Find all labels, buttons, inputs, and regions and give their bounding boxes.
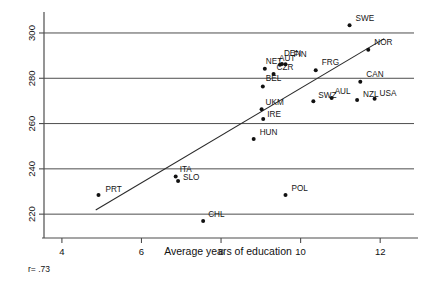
point-label-pol: POL: [291, 184, 308, 193]
data-point-swe: [348, 23, 352, 27]
y-tick-label-280: 280: [26, 70, 37, 86]
y-tick-label-220: 220: [26, 206, 37, 222]
data-point-den: [280, 62, 284, 66]
y-tick-labels-group: 220240260280300: [26, 25, 37, 222]
data-point-nzl: [355, 98, 359, 102]
data-point-slo: [176, 179, 180, 183]
point-label-chl: CHL: [208, 210, 225, 219]
x-tick-label-10: 10: [295, 246, 306, 257]
data-point-aul: [330, 96, 334, 100]
data-point-nor: [366, 48, 370, 52]
data-point-can: [358, 80, 362, 84]
point-label-nzl: NZL: [363, 90, 379, 99]
data-point-usa: [373, 97, 377, 101]
point-label-usa: USA: [380, 89, 397, 98]
point-label-ire: IRE: [267, 110, 281, 119]
data-point-chl: [201, 219, 205, 223]
x-axis-title: Average years of education: [164, 245, 292, 257]
data-point-hun: [252, 137, 256, 141]
point-label-slo: SLO: [183, 173, 199, 182]
data-point-swz: [311, 99, 315, 103]
regression-line: [96, 39, 384, 210]
data-point-pol: [283, 193, 287, 197]
point-label-can: CAN: [366, 70, 383, 79]
data-point-czr: [272, 72, 276, 76]
plot-canvas: PRTITASLOCHLHUNIREUKMBELNETCZRAUTDENFINP…: [0, 0, 425, 286]
data-point-bel: [261, 84, 265, 88]
data-points-group: PRTITASLOCHLHUNIREUKMBELNETCZRAUTDENFINP…: [97, 14, 397, 223]
data-point-ukm: [260, 107, 264, 111]
data-point-ita: [174, 175, 178, 179]
data-point-frg: [314, 68, 318, 72]
point-label-prt: PRT: [106, 185, 122, 194]
data-point-ire: [261, 117, 265, 121]
gridlines-group: [44, 33, 414, 214]
x-tick-label-6: 6: [139, 246, 144, 257]
point-label-ukm: UKM: [266, 98, 284, 107]
x-tick-label-4: 4: [59, 246, 64, 257]
point-label-nor: NOR: [374, 38, 392, 47]
axes-group: [42, 12, 418, 238]
point-label-fin: FIN: [293, 50, 306, 59]
data-point-fin: [283, 62, 287, 66]
correlation-annotation: r= .73: [28, 264, 50, 274]
y-tick-label-240: 240: [26, 161, 37, 177]
point-label-swe: SWE: [356, 14, 375, 23]
point-label-aul: AUL: [335, 87, 351, 96]
point-label-frg: FRG: [322, 58, 339, 67]
point-label-hun: HUN: [260, 128, 278, 137]
regression-line-group: [96, 39, 384, 210]
y-tick-label-300: 300: [26, 25, 37, 41]
x-tick-label-12: 12: [375, 246, 386, 257]
data-point-prt: [97, 193, 101, 197]
y-tick-label-260: 260: [26, 116, 37, 132]
data-point-net: [263, 67, 267, 71]
scatter-plot-figure: PRTITASLOCHLHUNIREUKMBELNETCZRAUTDENFINP…: [0, 0, 425, 286]
